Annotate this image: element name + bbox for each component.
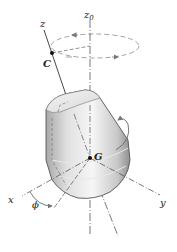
- rigid-body-diagram: z z0 C G x y ϕ: [0, 0, 177, 252]
- label-y: y: [159, 197, 166, 208]
- label-g: G: [94, 151, 103, 162]
- label-z: z: [39, 18, 46, 29]
- radius-line: [52, 46, 90, 53]
- precession-circle: [51, 34, 139, 58]
- label-z0: z0: [83, 9, 94, 22]
- rigid-body: [46, 90, 130, 198]
- label-x: x: [8, 194, 14, 205]
- label-c: C: [43, 58, 51, 69]
- label-phi: ϕ: [32, 199, 39, 210]
- point-c: [50, 51, 54, 55]
- point-g: [88, 156, 92, 160]
